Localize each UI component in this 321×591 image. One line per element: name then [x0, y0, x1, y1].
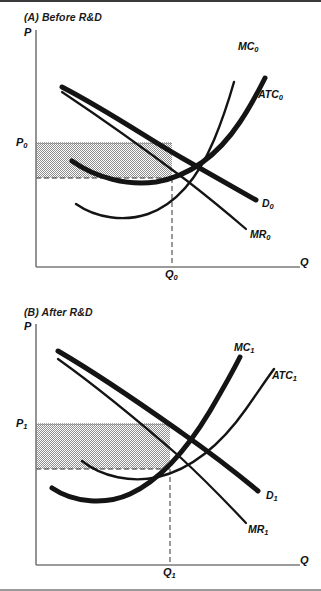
curve-d1 — [58, 351, 258, 491]
quantity-label-a-sub: 0 — [174, 273, 178, 282]
curve-label-d1-sub: 1 — [274, 494, 278, 503]
curve-label-d1-text: D — [266, 489, 274, 501]
price-label-b: P1 — [16, 417, 28, 429]
panel-b-plot — [0, 291, 321, 591]
panel-a-plot — [0, 0, 321, 291]
y-axis-label-a: P — [24, 26, 31, 38]
curve-label-mr0-sub: 0 — [266, 233, 270, 242]
curve-label-d0-text: D — [262, 197, 270, 209]
curve-label-mr0: MR0 — [250, 228, 271, 240]
curve-label-atc1: ATC1 — [272, 369, 297, 381]
curve-label-atc0-sub: 0 — [279, 93, 283, 102]
x-axis-label-a: Q — [300, 256, 309, 268]
curve-label-mr1: MR1 — [248, 523, 269, 535]
price-label-a-sub: 0 — [23, 141, 27, 150]
quantity-label-a: Q0 — [165, 268, 178, 280]
y-axis-label-b: P — [24, 320, 31, 332]
curve-label-atc1-sub: 1 — [293, 374, 297, 383]
panel-after-rd: (B) After R&D P Q P1 Q1 MC1 ATC1 D1 — [0, 291, 321, 591]
curve-label-mc1-sub: 1 — [250, 346, 254, 355]
price-label-b-sub: 1 — [23, 422, 27, 431]
curve-label-mr1-sub: 1 — [264, 528, 268, 537]
curve-label-d0-sub: 0 — [270, 202, 274, 211]
profit-rectangle-a — [36, 143, 172, 178]
quantity-label-a-text: Q — [165, 268, 174, 280]
curve-label-d1: D1 — [266, 489, 278, 501]
quantity-label-b: Q1 — [163, 566, 176, 578]
curve-label-atc0: ATC0 — [258, 88, 283, 100]
curve-label-mc1-text: MC — [234, 341, 250, 353]
curve-label-d0: D0 — [262, 197, 274, 209]
curve-label-mc0: MC0 — [238, 40, 259, 52]
curve-label-mr0-text: MR — [250, 228, 266, 240]
curve-label-mr1-text: MR — [248, 523, 264, 535]
quantity-label-b-text: Q — [163, 566, 172, 578]
curve-label-mc0-sub: 0 — [254, 45, 258, 54]
curve-label-mc1: MC1 — [234, 341, 255, 353]
curve-label-atc0-text: ATC — [258, 88, 279, 100]
quantity-label-b-sub: 1 — [172, 571, 176, 580]
curve-label-atc1-text: ATC — [272, 369, 293, 381]
x-axis-label-b: Q — [300, 554, 309, 566]
curve-label-mc0-text: MC — [238, 40, 254, 52]
panel-before-rd: (A) Before R&D P Q P0 Q0 MC0 — [0, 0, 321, 291]
price-label-a: P0 — [16, 136, 28, 148]
